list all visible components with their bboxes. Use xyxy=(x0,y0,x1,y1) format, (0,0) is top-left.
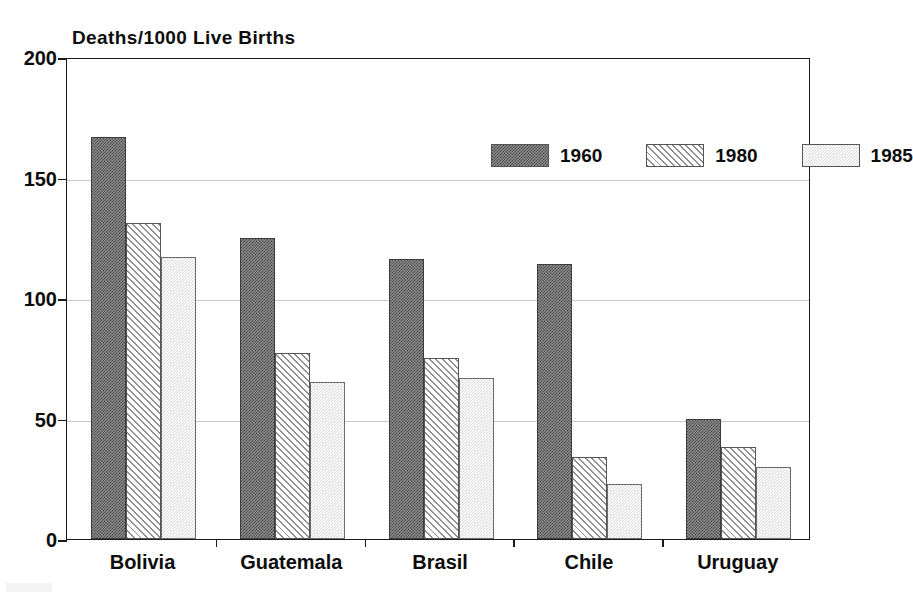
y-axis-tick xyxy=(58,540,67,542)
bar-uruguay-1960[interactable] xyxy=(686,419,721,540)
y-axis-tick-label: 150 xyxy=(24,169,57,189)
bar-guatemala-1985[interactable] xyxy=(310,382,345,539)
dark-stipple-swatch xyxy=(491,144,549,167)
bar-bolivia-1960[interactable] xyxy=(91,137,126,539)
diagonal-hatch-swatch xyxy=(646,144,704,167)
plot-area: 196019801985 xyxy=(66,58,810,540)
x-axis-label-uruguay: Uruguay xyxy=(638,552,838,572)
chart-title: Deaths/1000 Live Births xyxy=(72,27,296,49)
bar-guatemala-1980[interactable] xyxy=(275,353,310,539)
x-axis-tick xyxy=(365,539,367,547)
legend-entry-1980[interactable]: 1980 xyxy=(646,144,757,167)
bar-bolivia-1985[interactable] xyxy=(161,257,196,539)
legend-label-1980: 1980 xyxy=(715,146,757,165)
bars-layer xyxy=(67,59,809,539)
legend-label-1960: 1960 xyxy=(560,146,602,165)
y-axis-tick-label: 50 xyxy=(35,410,57,430)
bar-guatemala-1960[interactable] xyxy=(240,238,275,539)
bar-uruguay-1985[interactable] xyxy=(756,467,791,539)
scan-artifact xyxy=(6,583,52,592)
bar-chile-1980[interactable] xyxy=(572,457,607,539)
bar-uruguay-1980[interactable] xyxy=(721,447,756,539)
x-axis: BoliviaGuatemalaBrasilChileUruguay xyxy=(66,552,810,584)
legend-entry-1985[interactable]: 1985 xyxy=(802,144,913,167)
bar-chile-1985[interactable] xyxy=(607,484,642,539)
legend: 196019801985 xyxy=(491,144,913,167)
bar-brasil-1980[interactable] xyxy=(424,358,459,539)
legend-label-1985: 1985 xyxy=(871,146,913,165)
x-axis-tick xyxy=(216,539,218,547)
light-stipple-swatch xyxy=(802,144,860,167)
y-axis-tick xyxy=(58,179,67,181)
bar-chile-1960[interactable] xyxy=(537,264,572,539)
bar-bolivia-1980[interactable] xyxy=(126,223,161,539)
legend-entry-1960[interactable]: 1960 xyxy=(491,144,602,167)
y-axis-tick-label: 0 xyxy=(46,530,57,550)
bar-brasil-1985[interactable] xyxy=(459,378,494,539)
bar-brasil-1960[interactable] xyxy=(389,259,424,539)
y-axis-tick xyxy=(58,299,67,301)
x-axis-tick xyxy=(513,539,515,547)
y-axis: 050100150200 xyxy=(0,58,57,540)
y-axis-tick xyxy=(58,58,67,60)
y-axis-tick xyxy=(58,420,67,422)
y-axis-tick-label: 200 xyxy=(24,48,57,68)
x-axis-tick xyxy=(662,539,664,547)
y-axis-tick-label: 100 xyxy=(24,289,57,309)
